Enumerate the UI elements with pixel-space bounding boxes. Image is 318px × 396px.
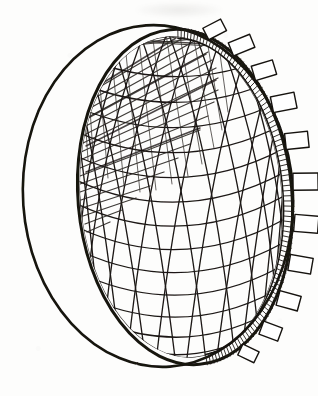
- rim-flange: [293, 173, 318, 190]
- rim-flange-plate: [276, 291, 301, 311]
- rim-flange: [259, 321, 283, 341]
- rim-flange-plate: [259, 321, 283, 341]
- rim-flange: [276, 291, 301, 311]
- figure-root: [0, 0, 318, 396]
- rim-flange-plate: [228, 34, 255, 56]
- rim-flange: [251, 60, 276, 81]
- rim-flange: [228, 34, 255, 56]
- rim-flange-plate: [270, 92, 297, 112]
- rim-flange-plate: [294, 214, 318, 233]
- rim-flange-plate: [238, 344, 259, 363]
- rim-flange: [238, 344, 259, 363]
- rim-flange-plate: [288, 254, 313, 274]
- rim-band-rung: [284, 211, 294, 212]
- rim-flange-plate: [251, 60, 276, 81]
- rim-flange: [294, 214, 318, 233]
- rim-flange-plate: [285, 131, 310, 149]
- rim-flange: [288, 254, 313, 274]
- rim-flange: [270, 92, 297, 112]
- dome-sketch-svg: [0, 0, 318, 396]
- rim-flange: [285, 131, 310, 149]
- rim-flange-plate: [293, 173, 318, 190]
